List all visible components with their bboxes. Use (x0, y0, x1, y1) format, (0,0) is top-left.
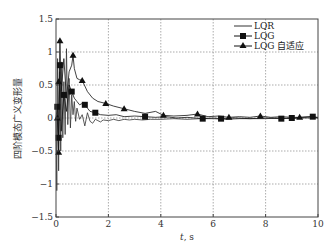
lqg-square-marker (92, 110, 98, 116)
y-tick-label: 1.5 (39, 14, 54, 24)
lqg-square-marker (289, 115, 295, 121)
chart: 0246810−1.5−1−0.500.511.5 LQR LQG LQG 自适… (0, 0, 336, 249)
x-axis-label: t, s (180, 232, 194, 242)
y-axis-label: 四阶模态广义变形量 (12, 78, 23, 159)
x-tick-label: 4 (158, 219, 164, 229)
legend-lqg-adaptive-label: LQG 自适应 (254, 40, 304, 51)
x-axis-label-unit: , s (184, 232, 195, 242)
x-tick-label: 0 (53, 219, 59, 229)
legend-lqg-square-marker (240, 33, 246, 39)
lqg-square-marker (142, 114, 148, 120)
x-tick-label: 2 (106, 219, 112, 229)
y-tick-label: 0.5 (39, 80, 54, 90)
x-tick-label: 6 (210, 219, 216, 229)
legend-lqg-label: LQG (254, 31, 275, 41)
lqg-square-marker (82, 102, 88, 108)
lqg-square-marker (200, 116, 206, 122)
y-tick-label: −0.5 (31, 146, 53, 156)
y-tick-label: −1.5 (31, 212, 53, 222)
legend-lqr-label: LQR (254, 21, 274, 31)
x-tick-label: 10 (312, 219, 324, 229)
y-tick-label: 0 (47, 113, 53, 123)
lqg-square-marker (69, 89, 75, 95)
lqg-square-marker (54, 104, 60, 110)
y-tick-label: 1 (47, 47, 53, 57)
x-tick-label: 8 (263, 219, 269, 229)
lqg-square-marker (57, 62, 63, 68)
y-tick-label: −1 (40, 179, 53, 189)
